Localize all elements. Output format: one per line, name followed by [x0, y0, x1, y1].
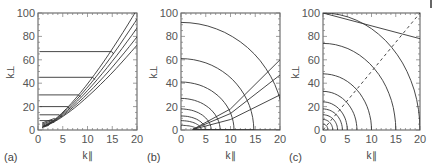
y-axis-label: k⊥ [148, 65, 159, 79]
x-axis-label: k∥ [83, 150, 93, 162]
y-tick-label: 0 [172, 124, 178, 136]
plot-frame [38, 13, 137, 130]
x-tick-label: 15 [106, 133, 118, 145]
y-tick-label: 80 [23, 30, 35, 42]
y-tick-label: 100 [302, 7, 320, 19]
panel-c: 05101520020406080100k∥k⊥(c) [289, 7, 426, 163]
y-tick-label: 80 [308, 30, 320, 42]
y-tick-label: 60 [166, 54, 178, 66]
contours [323, 13, 420, 130]
x-tick-label: 20 [131, 133, 143, 145]
x-tick-label: 0 [35, 133, 41, 145]
y-tick-label: 20 [308, 101, 320, 113]
x-tick-label: 10 [81, 133, 93, 145]
y-tick-label: 20 [23, 101, 35, 113]
y-axis-label: k⊥ [5, 65, 16, 79]
x-axis-label: k∥ [367, 150, 377, 162]
panel-label: (b) [147, 151, 160, 163]
x-tick-label: 10 [365, 133, 377, 145]
y-tick-label: 60 [23, 54, 35, 66]
y-tick-label: 40 [308, 77, 320, 89]
x-tick-label: 5 [344, 133, 350, 145]
y-tick-label: 0 [314, 124, 320, 136]
y-tick-label: 60 [308, 54, 320, 66]
x-axis-label: k∥ [226, 150, 236, 162]
y-tick-label: 100 [160, 7, 178, 19]
panel-b: 05101520020406080100k∥k⊥(b) [147, 7, 286, 163]
y-tick-label: 40 [23, 77, 35, 89]
panel-label: (c) [289, 151, 302, 163]
y-tick-label: 80 [166, 30, 178, 42]
y-tick-label: 20 [166, 101, 178, 113]
contours [181, 22, 285, 130]
x-tick-label: 20 [414, 133, 426, 145]
x-tick-label: 5 [203, 133, 209, 145]
x-tick-label: 15 [390, 133, 402, 145]
plot-frame [323, 13, 420, 130]
y-axis-label: k⊥ [290, 65, 301, 79]
x-tick-label: 20 [274, 133, 286, 145]
figure: 05101520020406080100k∥k⊥(a)0510152002040… [0, 0, 434, 168]
x-tick-label: 0 [178, 133, 184, 145]
y-tick-label: 100 [17, 7, 35, 19]
y-tick-label: 40 [166, 77, 178, 89]
x-tick-label: 5 [60, 133, 66, 145]
y-tick-label: 0 [29, 124, 35, 136]
x-tick-label: 15 [249, 133, 261, 145]
panel-label: (a) [4, 151, 17, 163]
x-tick-label: 10 [224, 133, 236, 145]
x-tick-label: 0 [320, 133, 326, 145]
panel-a: 05101520020406080100k∥k⊥(a) [4, 7, 147, 163]
contours [40, 10, 148, 128]
